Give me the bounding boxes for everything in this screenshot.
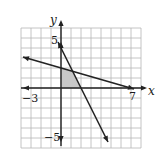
linear-inequality-graph: x y −3 7 5 −5: [0, 0, 167, 159]
axis-labels: x y −3 7 5 −5: [22, 13, 155, 144]
y-axis-label: y: [49, 13, 57, 27]
tick-label-x-7: 7: [129, 90, 136, 103]
tick-label-y-5: 5: [51, 34, 58, 47]
x-axis-label: x: [148, 84, 155, 98]
boundary-lines: [23, 42, 134, 142]
tick-label-y-neg5: −5: [44, 131, 60, 144]
steep-line: [58, 42, 108, 142]
tick-label-x-neg3: −3: [22, 92, 38, 105]
axes: [21, 20, 147, 146]
